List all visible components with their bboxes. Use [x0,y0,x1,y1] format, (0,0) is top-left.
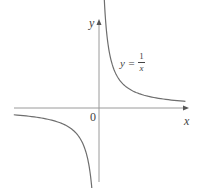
origin-label: 0 [90,111,96,123]
y-axis-arrow-icon [97,19,102,25]
fraction-numerator: 1 [139,52,144,61]
hyperbola-figure: y x 0 y = 1 x [0,0,201,188]
x-axis-label: x [184,115,189,127]
equation-fraction: 1 x [138,52,145,73]
x-axis-arrow-icon [183,106,189,111]
function-equation-label: y = 1 x [120,52,145,73]
fraction-denominator: x [140,64,144,73]
equation-lhs: y = [120,57,135,69]
y-axis-label: y [89,17,94,29]
plot-area [0,0,201,188]
curve-negative-branch [14,115,97,188]
